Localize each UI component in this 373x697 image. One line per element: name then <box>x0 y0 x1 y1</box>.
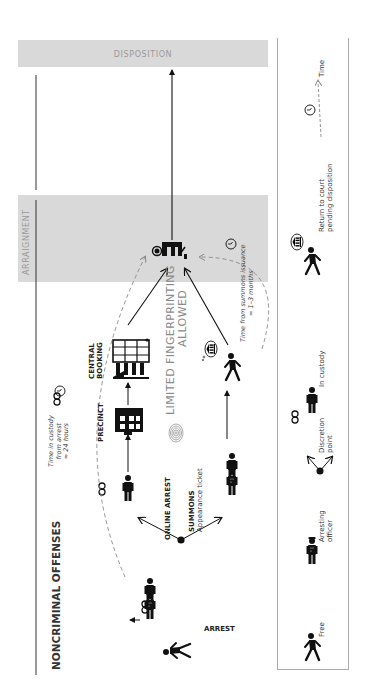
summons-time-note: Time from summons issuance = 1–3 months <box>240 244 255 342</box>
central-booking-label-2: BOOKING <box>96 342 104 379</box>
legend-label-discretion: Discretion point <box>318 418 334 453</box>
legend-label-time: Time <box>318 60 326 77</box>
judge-bench-icon <box>153 242 188 259</box>
central-booking-label-1: CENTRAL <box>88 343 96 379</box>
legend-label-custody: In custody <box>318 351 326 387</box>
courthouse-thought-icon <box>205 341 217 357</box>
precinct-label: PRECINCT <box>97 403 105 442</box>
summons-time-arc <box>200 257 269 349</box>
summons-label: SUMMONS <box>188 490 196 532</box>
clock-icon <box>226 239 236 249</box>
fingerprint-icon <box>0 134 183 442</box>
precinct-building-icon <box>115 408 143 435</box>
arrest-label: ARREST <box>204 625 235 633</box>
online-arrest-label: ONLINE ARREST <box>164 477 172 540</box>
legend-label-return: Return to court pending disposition <box>318 164 334 232</box>
legend-label-officer: Arresting officer <box>318 510 334 542</box>
legend-box <box>277 38 349 670</box>
custody-time-note: Time in custody from arrest ≈ 24 hours <box>48 415 71 467</box>
free-person-icon <box>163 643 190 658</box>
legend-label-free: Free <box>318 622 326 637</box>
fingerprinting-label-2: ALLOWED <box>177 290 189 347</box>
summons-sublabel: Appearance ticket <box>196 468 204 532</box>
diagram-canvas: ARRAIGNMENT DISPOSITION NONCRIMINAL OFFE… <box>0 0 373 697</box>
central-booking-building-icon <box>113 338 149 379</box>
